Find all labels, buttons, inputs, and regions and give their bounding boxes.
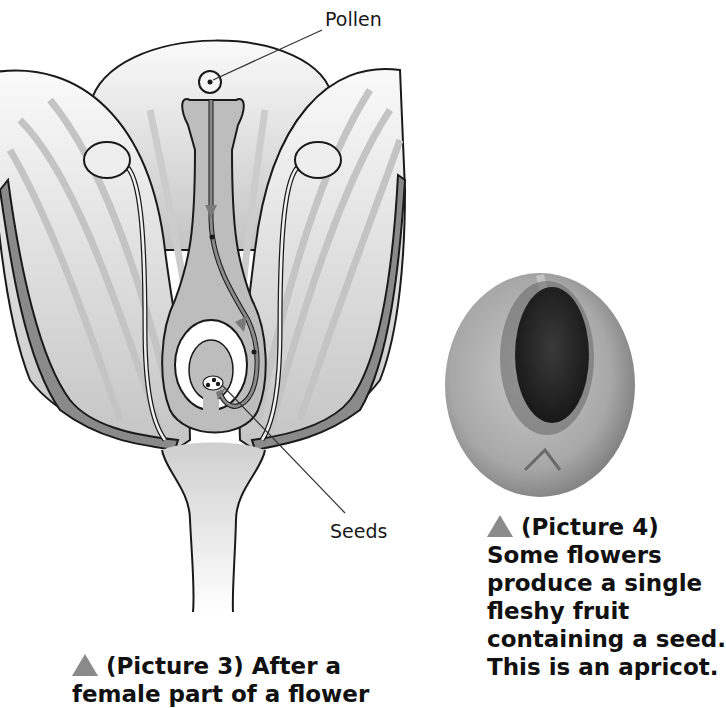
stem — [162, 443, 265, 613]
left-anther — [84, 142, 130, 178]
apricot-pit — [515, 287, 589, 423]
picture-3-caption: (Picture 3) After a female part of a flo… — [72, 652, 369, 708]
apricot-photo — [445, 273, 635, 497]
picture-4-caption: (Picture 4) Some flowers produce a singl… — [487, 513, 726, 681]
triangle-marker-icon — [72, 654, 98, 676]
right-anther — [295, 142, 341, 178]
seeds-label: Seeds — [330, 520, 387, 542]
pollen-label: Pollen — [325, 8, 382, 30]
triangle-marker-icon — [487, 515, 513, 537]
